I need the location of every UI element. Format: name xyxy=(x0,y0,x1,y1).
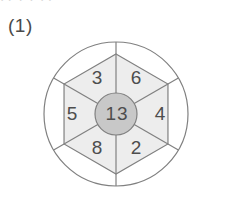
cell-value-upper-right: 6 xyxy=(131,67,142,88)
cell-value-lower-left: 8 xyxy=(92,137,103,158)
cell-value-right: 4 xyxy=(155,103,166,124)
hexagon-wheel-diagram: 3 6 4 2 8 5 13 xyxy=(0,0,247,224)
cell-value-lower-right: 2 xyxy=(131,137,142,158)
center-value: 13 xyxy=(105,103,128,124)
figure-root: · · · · · · (1) 3 6 xyxy=(0,0,247,224)
cell-value-upper-left: 3 xyxy=(92,67,103,88)
cell-value-left: 5 xyxy=(67,103,78,124)
